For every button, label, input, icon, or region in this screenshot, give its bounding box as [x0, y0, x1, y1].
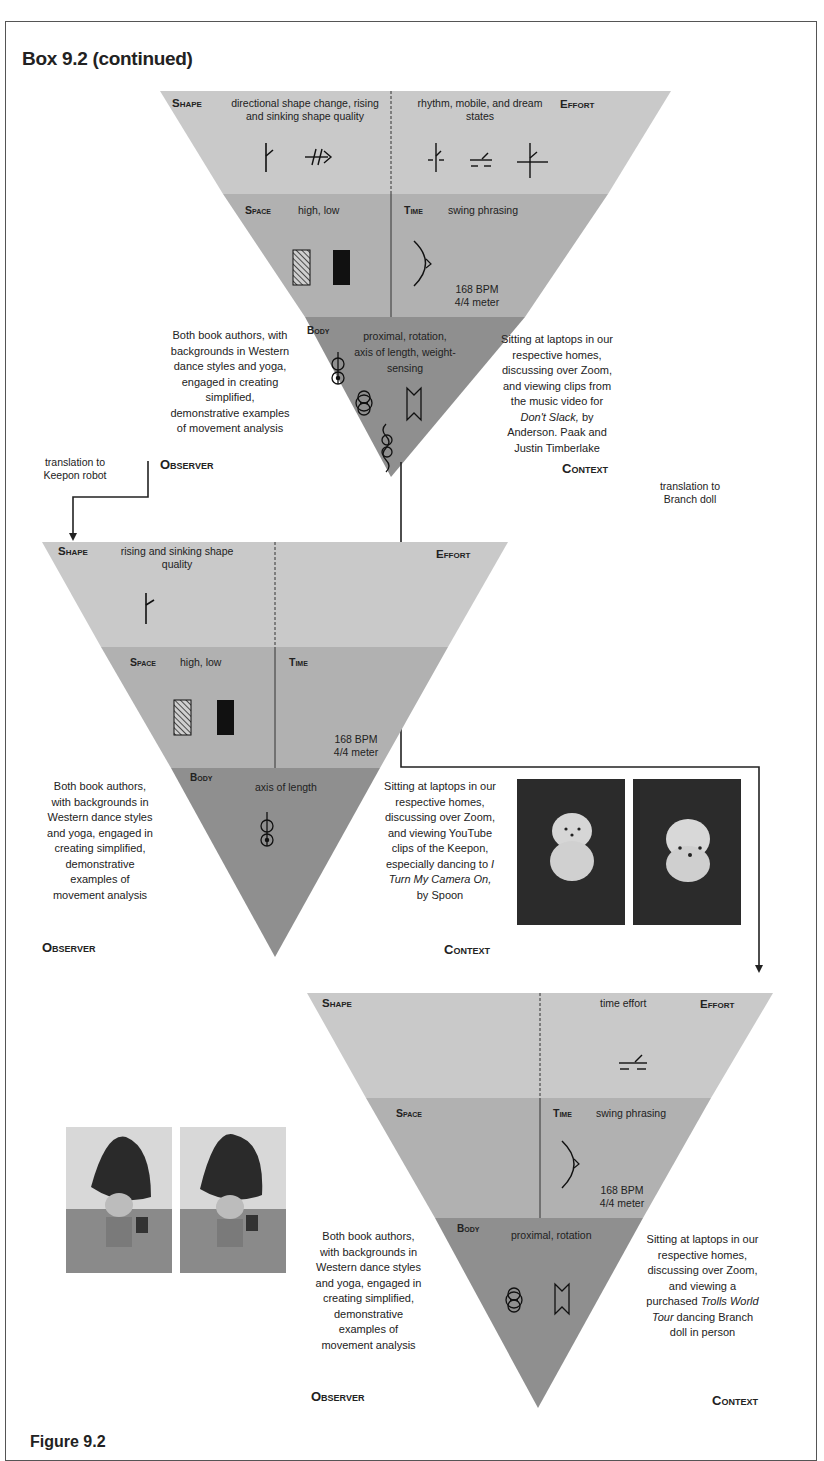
branch-doll-photo-1 [66, 1127, 172, 1273]
body-description: proximal, rotation [511, 1229, 592, 1242]
label-observer: Observer [311, 1389, 364, 1404]
branch-doll-photo-2 [180, 1127, 286, 1273]
label-shape: Shape [322, 997, 352, 1009]
context-description: Sitting at laptops in ourrespective home… [640, 1232, 765, 1341]
label-effort: Effort [700, 998, 734, 1010]
effort-description: time effort [600, 997, 647, 1010]
time-description: swing phrasing [596, 1107, 666, 1120]
figure-label: Figure 9.2 [30, 1433, 106, 1451]
tempo-text: 168 BPM4/4 meter [592, 1184, 652, 1210]
label-time: Time [553, 1107, 572, 1119]
observer-description: Both book authors,with backgrounds inWes… [306, 1229, 431, 1353]
label-context: Context [712, 1393, 758, 1408]
label-body: Body [457, 1223, 479, 1234]
label-space: Space [396, 1107, 422, 1119]
